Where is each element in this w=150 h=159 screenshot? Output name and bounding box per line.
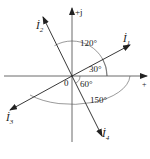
label-i4: İ4 bbox=[101, 127, 110, 142]
phasor-i3 bbox=[10, 76, 72, 110]
angle-label-120: 120° bbox=[80, 38, 98, 48]
imag-axis-label: +j bbox=[75, 7, 83, 17]
angle-label-150: 150° bbox=[90, 95, 108, 105]
phasor-i2 bbox=[43, 17, 72, 76]
origin-label: 0 bbox=[64, 78, 69, 88]
label-i1: İ1 bbox=[122, 32, 130, 47]
label-i3: İ3 bbox=[5, 111, 14, 126]
phasor-diagram: +j + 0 İ1 İ2 İ3 İ4 120° 30° 60° 150° bbox=[0, 0, 150, 159]
real-axis-label: + bbox=[142, 80, 147, 89]
angle-label-60: 60° bbox=[80, 79, 93, 89]
label-i2: İ2 bbox=[35, 19, 44, 34]
arc-30 bbox=[102, 59, 107, 77]
angle-label-30: 30° bbox=[89, 64, 102, 74]
